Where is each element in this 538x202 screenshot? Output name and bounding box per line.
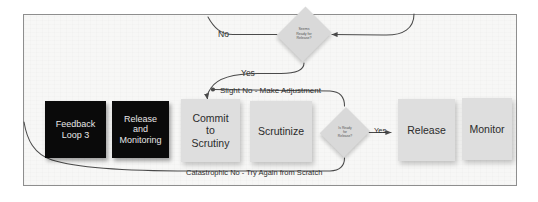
edge-label-slight-no: Slight No - Make Adjustment [220,86,321,95]
node-monitor[interactable]: Monitor [462,98,512,160]
decision-seems-ready-for-release[interactable]: Seems Ready for Release? [278,5,330,63]
edge-label-yes-top: Yes [241,68,255,78]
edge-label-catastrophic-no: Catastrophic No - Try Again from Scratch [186,168,322,177]
node-label: Release [407,124,446,136]
node-label: Release and Monitoring [119,114,161,146]
decision-label: Is Ready for Release? [321,106,369,158]
node-scrutinize[interactable]: Scrutinize [250,101,312,162]
diagram-canvas: Feedback Loop 3 Release and Monitoring C… [0,0,538,202]
node-release[interactable]: Release [398,99,455,161]
edge-label-yes-release: Yes [374,126,386,135]
node-label: Scrutinize [258,125,304,137]
decision-is-ready-for-release[interactable]: Is Ready for Release? [321,106,369,158]
edge-label-no: No [218,29,229,39]
node-label: Monitor [469,123,504,135]
node-label: Feedback Loop 3 [56,119,96,140]
decision-label: Seems Ready for Release? [278,5,330,63]
node-release-and-monitoring[interactable]: Release and Monitoring [112,101,169,158]
node-label: Commit to Scrutiny [192,112,230,149]
node-feedback-loop-3[interactable]: Feedback Loop 3 [45,101,106,158]
node-commit-to-scrutiny[interactable]: Commit to Scrutiny [181,99,240,162]
